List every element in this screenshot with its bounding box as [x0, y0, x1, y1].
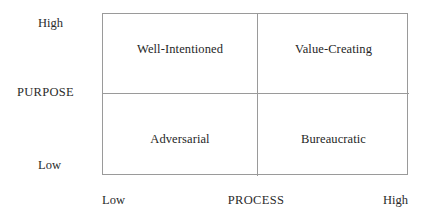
x-axis-low-label: Low [102, 193, 125, 208]
y-axis-high-label: High [38, 16, 63, 31]
x-axis: Low PROCESS High [102, 193, 408, 209]
matrix-diagram: High PURPOSE Low Well-Intentioned Value-… [0, 0, 432, 220]
quadrant-bottom-left: Adversarial [103, 94, 257, 176]
quadrant-label-adversarial: Adversarial [150, 132, 209, 147]
x-axis-high-label: High [383, 193, 408, 208]
quadrant-bottom-right: Bureaucratic [258, 94, 409, 176]
quadrant-label-value-creating: Value-Creating [295, 42, 372, 57]
quadrant-label-bureaucratic: Bureaucratic [301, 132, 366, 147]
y-axis-low-label: Low [38, 158, 61, 173]
y-axis-title: PURPOSE [17, 85, 74, 100]
quadrant-label-well-intentioned: Well-Intentioned [137, 42, 223, 57]
matrix-frame: Well-Intentioned Value-Creating Adversar… [102, 13, 408, 175]
x-axis-title: PROCESS [228, 193, 284, 208]
quadrant-top-left: Well-Intentioned [103, 14, 257, 93]
quadrant-top-right: Value-Creating [258, 14, 409, 93]
